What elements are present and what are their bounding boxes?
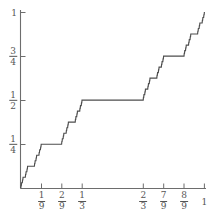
fraction-numerator: 7 bbox=[160, 191, 168, 200]
x-label-7-9: 7 9 bbox=[160, 191, 168, 211]
y-label-1: 1 bbox=[11, 8, 17, 17]
x-label-1-text: 1 bbox=[202, 198, 208, 207]
fraction-denominator: 9 bbox=[160, 202, 168, 211]
fraction-8-9: 8 9 bbox=[180, 191, 188, 211]
x-label-1-9: 1 9 bbox=[38, 191, 46, 211]
fraction-denominator: 4 bbox=[9, 58, 17, 67]
fraction-denominator: 3 bbox=[139, 202, 147, 211]
x-label-8-9: 8 9 bbox=[180, 191, 188, 211]
fraction-numerator: 2 bbox=[58, 191, 66, 200]
fraction-numerator: 2 bbox=[139, 191, 147, 200]
fraction-7-9: 7 9 bbox=[160, 191, 168, 211]
y-label-1-4: 1 4 bbox=[9, 134, 17, 154]
y-axis-ticks bbox=[21, 13, 26, 145]
x-label-1-3: 1 3 bbox=[78, 191, 86, 211]
x-label-2-9: 2 9 bbox=[58, 191, 66, 211]
fraction-1-4: 1 4 bbox=[9, 134, 17, 154]
y-label-1-2: 1 2 bbox=[9, 90, 17, 110]
x-label-2-3: 2 3 bbox=[139, 191, 147, 211]
fraction-denominator: 4 bbox=[9, 146, 17, 155]
fraction-1-9: 1 9 bbox=[38, 191, 46, 211]
fraction-numerator: 1 bbox=[9, 134, 17, 143]
fraction-denominator: 9 bbox=[58, 202, 66, 211]
fraction-denominator: 9 bbox=[180, 202, 188, 211]
fraction-denominator: 9 bbox=[38, 202, 46, 211]
cantor-curve bbox=[21, 12, 205, 188]
cantor-function-plot bbox=[0, 0, 214, 219]
y-label-3-4: 3 4 bbox=[9, 46, 17, 66]
axes-group bbox=[21, 10, 207, 189]
fraction-2-3: 2 3 bbox=[139, 191, 147, 211]
fraction-2-9: 2 9 bbox=[58, 191, 66, 211]
fraction-numerator: 1 bbox=[9, 90, 17, 99]
fraction-1-2: 1 2 bbox=[9, 90, 17, 110]
fraction-numerator: 8 bbox=[180, 191, 188, 200]
y-label-1-text: 1 bbox=[11, 8, 17, 17]
fraction-1-3: 1 3 bbox=[78, 191, 86, 211]
fraction-numerator: 3 bbox=[9, 46, 17, 55]
x-label-1: 1 bbox=[202, 198, 208, 207]
fraction-numerator: 1 bbox=[38, 191, 46, 200]
fraction-denominator: 3 bbox=[78, 202, 86, 211]
fraction-3-4: 3 4 bbox=[9, 46, 17, 66]
fraction-numerator: 1 bbox=[78, 191, 86, 200]
fraction-denominator: 2 bbox=[9, 102, 17, 111]
figure-canvas: 1 3 4 1 2 1 4 1 9 2 9 bbox=[0, 0, 214, 219]
x-axis-ticks bbox=[42, 184, 205, 189]
